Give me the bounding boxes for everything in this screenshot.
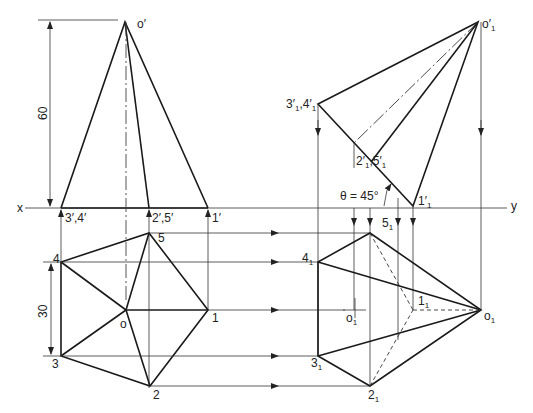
projection-drawing: x y 60 30 o′ 3′,4′ 2′,5′ 1′ o 1 2 3 4 5 … xyxy=(0,0,533,413)
dimension-height: 60 xyxy=(36,106,50,120)
aux-apex-label: o′1 xyxy=(482,17,496,33)
front-base-label-34: 3′,4′ xyxy=(65,211,87,225)
top-corner-5: 5 xyxy=(158,231,165,245)
aux-front-view xyxy=(318,22,481,386)
front-apex-label: o′ xyxy=(137,17,147,31)
x-label: x xyxy=(17,201,23,215)
aux-top-view xyxy=(318,233,481,386)
y-label: y xyxy=(511,199,517,213)
top-center-label: o xyxy=(120,317,127,331)
front-base-label-1: 1′ xyxy=(212,211,222,225)
top-corner-2: 2 xyxy=(153,388,160,402)
top-corner-3: 3 xyxy=(52,357,59,371)
aux-top-corner-2: 21 xyxy=(368,388,380,404)
top-view xyxy=(43,210,208,388)
aux-top-corner-5: 51 xyxy=(382,216,394,232)
aux-top-corner-1: 11 xyxy=(418,294,430,310)
labels: x y 60 30 o′ 3′,4′ 2′,5′ 1′ o 1 2 3 4 5 … xyxy=(17,17,517,404)
dimension-side: 30 xyxy=(36,304,50,318)
aux-front-label-1: 1′1 xyxy=(418,194,432,210)
aux-top-apex-label: o1 xyxy=(484,309,496,325)
front-base-label-25: 2′,5′ xyxy=(152,211,174,225)
horizontal-projectors xyxy=(61,233,370,386)
top-corner-1: 1 xyxy=(212,311,219,325)
drawing-canvas: x y 60 30 o′ 3′,4′ 2′,5′ 1′ o 1 2 3 4 5 … xyxy=(0,0,533,413)
front-view xyxy=(38,20,208,300)
aux-top-axis-center-label: o1 xyxy=(346,311,358,327)
aux-front-label-34: 3′1,4′1 xyxy=(286,97,317,113)
aux-front-label-25: 2′1,5′1 xyxy=(356,154,387,170)
aux-top-corner-4: 41 xyxy=(302,251,314,267)
top-corner-4: 4 xyxy=(53,252,60,266)
angle-label: θ = 45° xyxy=(340,189,379,203)
